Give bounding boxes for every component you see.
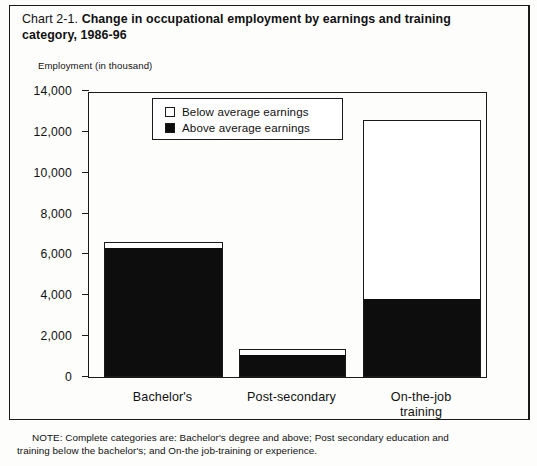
scanned-page: Chart 2-1. Change in occupational employ… (0, 0, 537, 466)
chart-number: Chart 2-1. (22, 12, 78, 26)
y-axis-tick: 6,000 (82, 253, 89, 254)
y-axis-tick-label: 2,000 (41, 329, 73, 343)
y-axis-tick: 0 (82, 376, 89, 377)
y-axis-tick-label: 8,000 (41, 207, 73, 221)
x-axis-label-3: On-the-jobtraining (341, 390, 501, 419)
y-axis-tick-label: 12,000 (34, 125, 72, 139)
note-line-1: NOTE: Complete categories are: Bachelor'… (17, 432, 522, 445)
bar-post-secondary (239, 349, 346, 377)
bar-segment-above-average-earnings (105, 248, 222, 376)
y-axis-tick: 8,000 (82, 213, 89, 214)
chart-title-text: Change in occupational employment by ear… (22, 12, 451, 42)
x-axis-label-line: On-the-job (341, 390, 501, 405)
chart-legend: Below average earnings Above average ear… (152, 98, 343, 140)
legend-swatch-filled-icon (165, 123, 175, 133)
legend-label-below-average: Below average earnings (182, 105, 309, 118)
y-axis-tick-label: 14,000 (34, 84, 72, 98)
chart-note: NOTE: Complete categories are: Bachelor'… (17, 432, 522, 457)
legend-swatch-hollow-icon (165, 107, 175, 117)
bar-bachelor-s (104, 242, 223, 377)
y-axis-tick: 4,000 (82, 294, 89, 295)
legend-item-below-average: Below average earnings (165, 104, 342, 119)
y-axis-tick: 14,000 (82, 90, 89, 91)
y-axis-tick: 10,000 (82, 172, 89, 173)
y-axis-tick: 12,000 (82, 131, 89, 132)
y-axis-tick: 2,000 (82, 335, 89, 336)
y-axis-tick-label: 4,000 (41, 288, 73, 302)
y-axis-caption: Employment (in thousand) (38, 60, 152, 71)
page-title: Chart 2-1. Change in occupational employ… (22, 12, 502, 43)
y-axis-tick-label: 0 (65, 370, 72, 384)
y-axis-tick-label: 10,000 (34, 166, 72, 180)
bar-segment-above-average-earnings (240, 355, 345, 376)
legend-label-above-average: Above average earnings (182, 121, 310, 134)
note-line-2: training below the bachelor's; and On-th… (17, 445, 522, 458)
y-axis-tick-label: 6,000 (41, 247, 73, 261)
bar-segment-above-average-earnings (364, 299, 480, 376)
bar-on-the-job-training (363, 120, 481, 377)
legend-item-above-average: Above average earnings (165, 120, 342, 135)
x-axis-label-line: training (341, 405, 501, 420)
